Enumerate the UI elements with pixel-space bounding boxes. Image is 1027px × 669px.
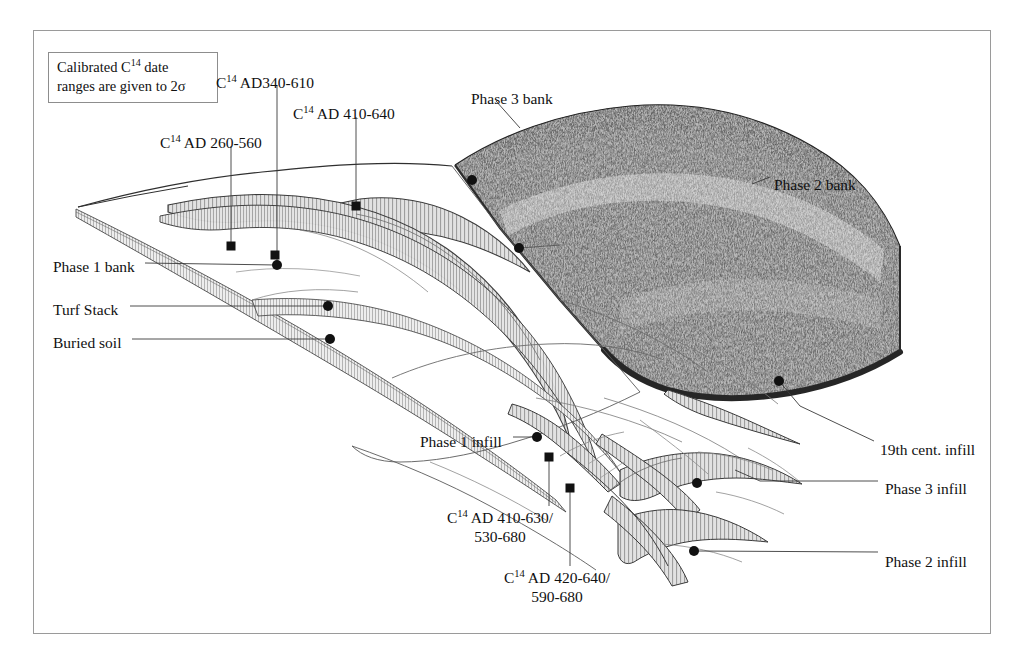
sample-marker-circle (272, 260, 282, 270)
sample-marker-circle (689, 546, 699, 556)
legend-line-2: ranges are given to 2σ (57, 78, 186, 94)
buried-soil-label: Buried soil (53, 333, 121, 352)
legend-box: Calibrated C14 date ranges are given to … (48, 52, 218, 103)
phase-1-bank-label: Phase 1 bank (53, 257, 135, 276)
sample-marker-circle (692, 478, 702, 488)
sample-marker-square (566, 484, 575, 493)
sample-marker-square (352, 202, 361, 211)
phase-3-infill-label: Phase 3 infill (885, 479, 967, 498)
sample-marker-square (227, 242, 236, 251)
sample-marker-circle (514, 243, 524, 253)
c14-ad-260-560: C14 AD 260-560 (160, 133, 262, 152)
sample-marker-circle (325, 334, 335, 344)
leader-phase-2-infill (697, 551, 878, 552)
sample-marker-circle (774, 376, 784, 386)
19th-cent-infill-label: 19th cent. infill (880, 440, 975, 459)
sample-marker-square (271, 251, 280, 260)
turf-stack-label: Turf Stack (53, 300, 118, 319)
turf-mound-group (440, 95, 920, 405)
sample-marker-circle (532, 432, 542, 442)
c14-ad-420-640-590-680: C14 AD 420-640/590-680 (504, 568, 610, 607)
phase-2-bank-label: Phase 2 bank (774, 175, 856, 194)
phase-2-infill-label: Phase 2 infill (885, 552, 967, 571)
c14-ad-410-640: C14 AD 410-640 (293, 104, 395, 123)
legend-line-1: Calibrated C14 date (57, 59, 168, 75)
figure-canvas: Calibrated C14 date ranges are given to … (0, 0, 1027, 669)
sample-marker-circle (467, 175, 477, 185)
phase-3-bank-label: Phase 3 bank (471, 89, 553, 108)
sample-marker-square (545, 453, 554, 462)
phase-1-infill-label: Phase 1 infill (420, 432, 502, 451)
c14-ad-410-630-530-680: C14 AD 410-630/530-680 (447, 508, 553, 547)
c14-ad-340-610: C14 AD340-610 (216, 73, 314, 92)
sample-marker-circle (323, 301, 333, 311)
